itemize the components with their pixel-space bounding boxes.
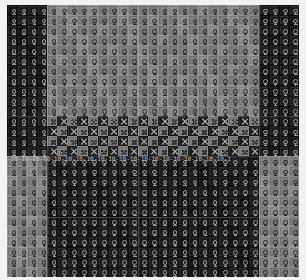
tile-plate bbox=[159, 157, 167, 165]
speckle-glyph bbox=[121, 150, 126, 155]
texture-tile bbox=[27, 136, 37, 146]
texture-tile bbox=[77, 156, 87, 166]
texture-tile bbox=[17, 126, 27, 136]
texture-tile bbox=[77, 196, 87, 206]
tile-plate bbox=[48, 127, 56, 135]
tile-plate bbox=[159, 87, 167, 95]
tile-plate bbox=[38, 107, 46, 115]
texture-tile bbox=[228, 96, 238, 106]
tile-plate bbox=[270, 36, 278, 44]
tile-plate bbox=[139, 207, 147, 215]
tile-plate bbox=[239, 137, 247, 145]
texture-tile bbox=[228, 86, 238, 96]
texture-tile bbox=[17, 106, 27, 116]
texture-tile bbox=[168, 196, 178, 206]
tile-plate bbox=[260, 6, 268, 14]
texture-tile bbox=[218, 156, 228, 166]
texture-tile bbox=[228, 267, 238, 277]
texture-tile bbox=[138, 206, 148, 216]
texture-tile bbox=[289, 236, 299, 246]
texture-tile bbox=[148, 166, 158, 176]
tile-plate bbox=[209, 268, 217, 276]
tile-plate bbox=[169, 237, 177, 245]
tile-plate bbox=[58, 237, 66, 245]
tile-plate bbox=[250, 157, 258, 165]
texture-tile bbox=[67, 55, 77, 65]
texture-tile bbox=[198, 136, 208, 146]
tile-plate bbox=[209, 97, 217, 105]
tile-plate bbox=[89, 217, 97, 225]
texture-tile bbox=[259, 166, 269, 176]
texture-tile bbox=[148, 55, 158, 65]
tile-plate bbox=[159, 147, 167, 155]
texture-tile bbox=[269, 55, 279, 65]
texture-tile bbox=[208, 186, 218, 196]
tile-plate bbox=[68, 227, 76, 235]
texture-tile bbox=[118, 45, 128, 55]
texture-tile bbox=[249, 75, 259, 85]
tile-plate bbox=[78, 167, 86, 175]
venus-bar-glyph bbox=[264, 276, 267, 277]
tile-plate bbox=[270, 107, 278, 115]
texture-tile bbox=[138, 45, 148, 55]
tile-plate bbox=[229, 26, 237, 34]
texture-tile bbox=[208, 196, 218, 206]
texture-tile bbox=[238, 236, 248, 246]
tile-plate bbox=[189, 187, 197, 195]
tile-plate bbox=[159, 227, 167, 235]
texture-tile bbox=[168, 257, 178, 267]
speckle-glyph bbox=[51, 119, 56, 124]
texture-tile bbox=[88, 226, 98, 236]
tile-plate bbox=[119, 217, 127, 225]
tile-plate bbox=[229, 66, 237, 74]
tile-plate bbox=[8, 268, 16, 276]
tile-plate bbox=[270, 46, 278, 54]
texture-tile bbox=[289, 86, 299, 96]
tile-plate bbox=[129, 127, 137, 135]
texture-tile bbox=[47, 5, 57, 15]
tile-plate bbox=[139, 187, 147, 195]
texture-tile bbox=[228, 196, 238, 206]
texture-tile bbox=[27, 75, 37, 85]
texture-tile bbox=[269, 86, 279, 96]
tile-plate bbox=[68, 177, 76, 185]
venus-bar-glyph bbox=[183, 276, 186, 277]
texture-tile bbox=[208, 116, 218, 126]
texture-tile bbox=[188, 206, 198, 216]
texture-tile bbox=[259, 196, 269, 206]
tile-plate bbox=[129, 6, 137, 14]
texture-tile bbox=[259, 25, 269, 35]
texture-tile bbox=[27, 236, 37, 246]
tile-plate bbox=[129, 137, 137, 145]
tile-plate bbox=[28, 107, 36, 115]
texture-tile bbox=[118, 196, 128, 206]
texture-tile bbox=[218, 236, 228, 246]
texture-tile bbox=[17, 75, 27, 85]
texture-tile bbox=[178, 116, 188, 126]
tile-plate bbox=[290, 197, 298, 205]
tile-plate bbox=[229, 76, 237, 84]
tile-plate bbox=[18, 197, 26, 205]
tile-plate bbox=[78, 137, 86, 145]
tile-plate bbox=[239, 207, 247, 215]
tile-plate bbox=[229, 227, 237, 235]
venus-bar-glyph bbox=[163, 276, 166, 277]
texture-tile bbox=[238, 5, 248, 15]
tile-plate bbox=[129, 217, 137, 225]
tile-plate bbox=[8, 237, 16, 245]
tile-plate bbox=[139, 6, 147, 14]
texture-tile bbox=[118, 35, 128, 45]
tile-plate bbox=[109, 177, 117, 185]
texture-tile bbox=[148, 146, 158, 156]
tile-plate bbox=[290, 107, 298, 115]
texture-tile bbox=[238, 96, 248, 106]
texture-tile bbox=[259, 176, 269, 186]
texture-tile bbox=[158, 96, 168, 106]
texture-tile bbox=[67, 216, 77, 226]
tile-plate bbox=[159, 97, 167, 105]
tile-plate bbox=[48, 16, 56, 24]
texture-tile bbox=[37, 166, 47, 176]
texture-tile bbox=[208, 176, 218, 186]
tile-plate bbox=[250, 177, 258, 185]
tile-plate bbox=[99, 258, 107, 266]
